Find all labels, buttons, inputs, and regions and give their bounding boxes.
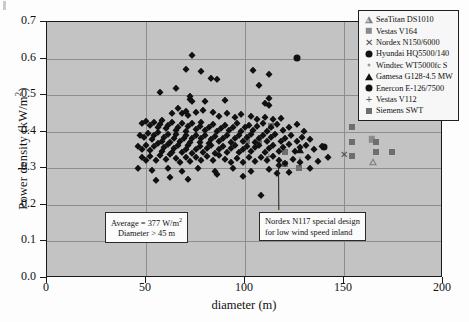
data-point: [307, 136, 313, 142]
data-point: [186, 158, 192, 164]
data-point: [285, 123, 291, 129]
legend-item-label: Hyundai HQ5500/140: [376, 49, 449, 58]
data-point: [289, 156, 295, 162]
data-point: [373, 149, 379, 155]
legend-marker-circle-icon: [362, 48, 376, 59]
data-point: [200, 107, 206, 113]
data-point: [373, 139, 379, 145]
data-point: [296, 165, 302, 171]
data-point: [167, 174, 173, 180]
data-point: [238, 111, 244, 117]
data-point: [250, 67, 256, 73]
legend-marker-triangle-open-icon: [362, 14, 376, 25]
data-point: [349, 139, 355, 145]
data-point: [224, 110, 230, 116]
data-point: [194, 165, 200, 171]
y-tick-label: 0.6: [2, 50, 36, 65]
legend-item-label: Gamesa G128-4.5 MW: [376, 72, 453, 81]
legend-item-label: SeaTitan DS1010: [376, 15, 434, 24]
data-point: [293, 137, 299, 143]
data-point: [153, 177, 159, 183]
legend-marker-triangle-icon: [362, 71, 376, 82]
data-point: [163, 156, 169, 162]
legend-item: Windtec WT5000fc S: [362, 60, 453, 71]
data-point: [214, 171, 220, 177]
data-point: [256, 81, 262, 87]
data-point: [165, 164, 171, 170]
legend-item-label: Vestas V164: [376, 27, 417, 36]
data-point: [285, 169, 291, 175]
data-point: [198, 119, 204, 125]
y-tick-label: 0.3: [2, 159, 36, 174]
callout-leader-line: [278, 164, 279, 210]
data-point: [198, 67, 204, 73]
x-tick-label: 200: [422, 280, 462, 295]
data-point: [214, 76, 220, 82]
gridline-horizontal: [47, 205, 441, 206]
y-tick-label: 0.7: [2, 13, 36, 28]
legend-marker-circle-icon: [362, 83, 376, 94]
data-point: [315, 158, 321, 164]
data-point: [370, 158, 378, 165]
legend-item: SeaTitan DS1010: [362, 14, 453, 25]
data-point: [135, 165, 141, 171]
gridline-horizontal: [47, 168, 441, 169]
data-point: [266, 71, 272, 77]
annotation-average-line1: Average = 377 W/m2: [111, 216, 182, 229]
data-point: [176, 158, 182, 164]
data-point: [192, 108, 198, 114]
data-point: [260, 120, 266, 126]
data-point: [299, 134, 305, 140]
y-tick-label: 0.1: [2, 232, 36, 247]
data-point: [252, 158, 258, 164]
y-tick-label: 0.5: [2, 86, 36, 101]
legend-marker-square-dark-icon: [362, 105, 376, 116]
data-point: [325, 153, 331, 159]
data-point: [198, 157, 204, 163]
data-point: [307, 165, 313, 171]
data-point: [389, 149, 395, 155]
legend-item-label: Windtec WT5000fc S: [376, 61, 447, 70]
data-point: [184, 176, 190, 182]
chart-legend: SeaTitan DS1010Vestas V164✕Nordex N150/6…: [358, 10, 459, 121]
data-point: [182, 66, 188, 72]
data-point: [266, 166, 272, 172]
legend-item: Vestas V164: [362, 25, 453, 36]
data-point: [234, 155, 240, 161]
data-point: [222, 97, 228, 103]
annotation-nordex-line1: Nordex N117 special design: [265, 216, 360, 227]
legend-item: Hyundai HQ5500/140: [362, 48, 453, 59]
legend-item: Enercon E-126/7500: [362, 82, 453, 93]
data-point: [178, 168, 184, 174]
x-tick-label: 150: [323, 280, 363, 295]
legend-item: Siemens SWT: [362, 105, 453, 116]
x-axis-label: diameter (m): [46, 298, 442, 313]
legend-item-label: Vestas V112: [376, 95, 417, 104]
legend-item: Gamesa G128-4.5 MW: [362, 71, 453, 82]
data-point: [277, 115, 283, 121]
annotation-average-line2: Diameter > 45 m: [111, 228, 182, 239]
legend-item-label: Enercon E-126/7500: [376, 84, 444, 93]
legend-marker-square-gray-icon: [362, 26, 376, 37]
data-point: [258, 191, 264, 197]
data-point: [172, 85, 178, 91]
annotation-nordex: Nordex N117 special design for low wind …: [259, 212, 366, 241]
data-point: [230, 164, 236, 170]
data-point: [208, 142, 214, 148]
data-point: [216, 113, 222, 119]
data-point: [210, 156, 216, 162]
data-point: [184, 112, 190, 118]
data-point: [311, 146, 317, 152]
data-point: [293, 55, 300, 62]
legend-marker-plus-icon: +: [362, 94, 376, 105]
x-tick-label: 100: [224, 280, 264, 295]
scan-artifact: [3, 1, 6, 10]
data-point: [349, 124, 355, 130]
y-tick-label: 0.2: [2, 196, 36, 211]
x-tick-label: 0: [26, 280, 66, 295]
chart-figure: Power density (kW/m2) diameter (m) 0.00.…: [0, 0, 469, 322]
x-tick-label: 50: [125, 280, 165, 295]
data-point: [349, 153, 355, 159]
data-point: [168, 109, 174, 115]
data-point: [291, 148, 297, 154]
